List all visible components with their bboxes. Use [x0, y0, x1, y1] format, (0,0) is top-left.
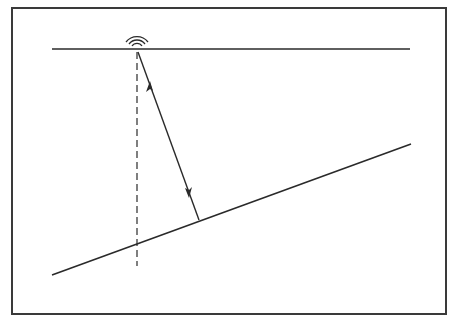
diagram-frame — [12, 8, 446, 314]
sloping-bottom-line — [52, 144, 411, 275]
sonar-diagram — [0, 0, 457, 323]
signal-waves-icon — [126, 37, 148, 46]
